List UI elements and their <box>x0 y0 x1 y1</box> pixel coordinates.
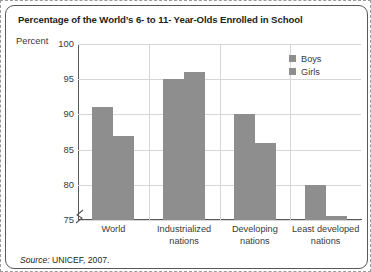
y-axis-tick: 95 <box>48 74 74 83</box>
legend-label: Boys <box>301 54 321 64</box>
y-axis-tick: 80 <box>48 180 74 189</box>
y-axis-tick: 90 <box>48 109 74 118</box>
source-prefix: Source: <box>20 255 50 265</box>
chart-legend: BoysGirls <box>289 52 321 78</box>
group-separator <box>220 44 221 220</box>
bar-girls-1 <box>184 72 205 220</box>
legend-item-girls: Girls <box>289 65 321 78</box>
y-axis-label: Percent <box>16 35 48 46</box>
bar-boys-0 <box>92 107 113 220</box>
bar-boys-3 <box>305 185 326 220</box>
legend-label: Girls <box>301 67 320 77</box>
category-label-line1: Least developed <box>278 224 371 236</box>
axis-break-icon <box>72 209 86 225</box>
legend-swatch-icon <box>289 55 296 62</box>
bar-girls-2 <box>255 143 276 220</box>
source-text: UNICEF, 2007. <box>50 255 110 265</box>
chart-title: Percentage of the World’s 6- to 11- Year… <box>18 14 358 25</box>
legend-swatch-icon <box>289 68 296 75</box>
bar-boys-1 <box>163 79 184 220</box>
source-note: Source: UNICEF, 2007. <box>20 255 109 265</box>
y-axis-tick: 100 <box>48 39 74 48</box>
bar-girls-0 <box>113 136 134 220</box>
bar-girls-3 <box>326 216 347 220</box>
y-axis-tick: 75 <box>48 215 74 224</box>
y-axis-tick-labels: 7580859095100 <box>46 44 74 220</box>
gridline <box>78 220 361 221</box>
bar-boys-2 <box>234 114 255 220</box>
x-axis-category-label: Least developednations <box>278 224 371 247</box>
group-separator <box>149 44 150 220</box>
legend-item-boys: Boys <box>289 52 321 65</box>
chart-panel: Percentage of the World’s 6- to 11- Year… <box>5 5 368 269</box>
category-label-line2: nations <box>278 236 371 248</box>
figure-container: Percentage of the World’s 6- to 11- Year… <box>0 0 371 272</box>
y-axis-tick: 85 <box>48 145 74 154</box>
